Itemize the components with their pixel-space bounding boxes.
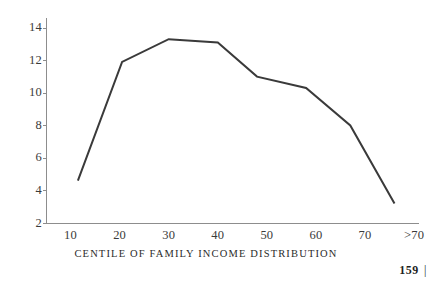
data-series-line: [0, 0, 436, 240]
plot-area: 2468101214 10203040506070>70: [0, 0, 436, 240]
folio-rule: |: [424, 263, 427, 277]
series-polyline: [78, 39, 395, 203]
folio-number: 159: [399, 263, 419, 277]
x-axis-title: CENTILE OF FAMILY INCOME DISTRIBUTION: [0, 248, 412, 259]
page-folio: 159|: [399, 263, 427, 278]
figure-container: 2468101214 10203040506070>70 CENTILE OF …: [0, 0, 436, 282]
